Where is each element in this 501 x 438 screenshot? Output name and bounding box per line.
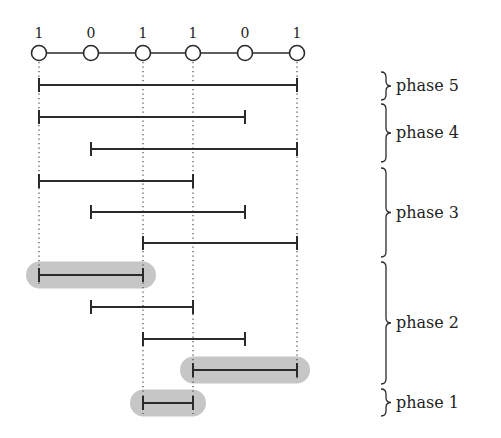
phase-interval-diagram: 101101 phase 5phase 4phase 3phase 2phase… [0,0,501,438]
right-brace-icon [381,104,391,162]
interval-segment [39,174,193,188]
right-brace-icon [381,262,391,384]
node-label: 1 [293,25,302,41]
node-circle [84,46,99,61]
interval-segment [143,332,245,346]
node-circle [136,46,151,61]
interval-segment [39,110,245,124]
interval-segment [91,300,193,314]
phase-label: phase 1 [396,393,459,412]
node-circle [32,46,47,61]
interval-segment [143,236,297,250]
node-label: 0 [241,25,250,41]
right-brace-icon [381,389,391,416]
phase-label: phase 2 [396,313,459,332]
node-circle [186,46,201,61]
node-label: 1 [139,25,148,41]
interval-segment [91,205,245,219]
node-label: 1 [35,25,44,41]
phase-label: phase 4 [396,123,459,142]
node-label: 1 [189,25,198,41]
node-circle [290,46,305,61]
phase-brace-layer: phase 5phase 4phase 3phase 2phase 1 [381,72,459,416]
right-brace-icon [381,72,391,100]
node-circle [238,46,253,61]
interval-segment [91,142,297,156]
right-brace-icon [381,168,391,257]
phase-label: phase 3 [396,203,459,222]
node-chain: 101101 [32,25,305,61]
node-label: 0 [87,25,96,41]
interval-segment [39,78,297,92]
phase-label: phase 5 [396,76,459,95]
